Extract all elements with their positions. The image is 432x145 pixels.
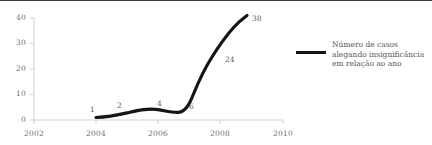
y-tick-label-10: 10 xyxy=(4,89,26,98)
x-tick-label-2008: 2008 xyxy=(203,129,237,138)
data-label-2009: 38 xyxy=(252,14,262,23)
y-tick-label-30: 30 xyxy=(4,38,26,47)
legend-label-line-2: alegando insignificância xyxy=(332,50,428,60)
x-tick-label-2002: 2002 xyxy=(17,129,51,138)
chart-legend: Número de casos alegando insignificância… xyxy=(296,40,428,69)
legend-line-swatch xyxy=(296,51,326,54)
x-tick-label-2006: 2006 xyxy=(141,129,175,138)
x-tick-label-2010: 2010 xyxy=(266,129,300,138)
data-label-2008: 24 xyxy=(225,55,235,64)
y-tick-label-40: 40 xyxy=(4,13,26,22)
y-tick-label-0: 0 xyxy=(4,115,26,124)
chart-figure: 40 30 20 10 0 2002 2004 2006 2008 2010 1… xyxy=(0,0,432,145)
legend-label-line-3: em relação ao ano xyxy=(332,59,428,69)
data-label-2005: 2 xyxy=(117,101,122,110)
legend-label-line-1: Número de casos xyxy=(332,40,428,50)
data-label-2006: 4 xyxy=(157,99,162,108)
legend-label: Número de casos alegando insignificância… xyxy=(332,40,428,69)
data-label-2007: 6 xyxy=(189,102,194,111)
chart-plot-area: 40 30 20 10 0 2002 2004 2006 2008 2010 1… xyxy=(0,0,300,145)
x-tick-label-2004: 2004 xyxy=(79,129,113,138)
y-tick-label-20: 20 xyxy=(4,64,26,73)
data-label-2004: 1 xyxy=(90,105,95,114)
